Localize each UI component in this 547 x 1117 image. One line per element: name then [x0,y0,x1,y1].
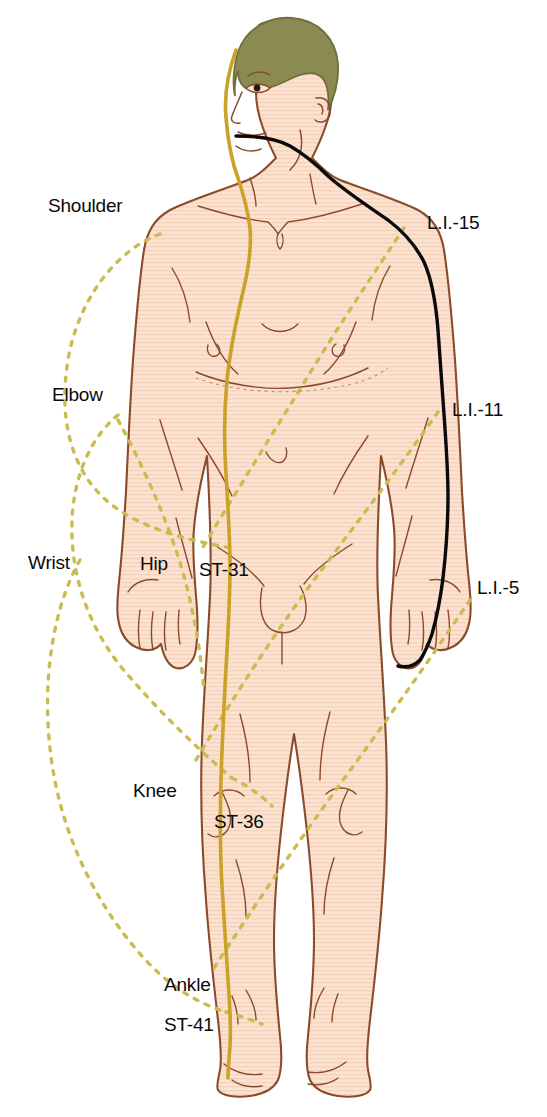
acupuncture-meridian-figure: Shoulder Elbow Wrist Hip Knee Ankle ST-3… [0,0,547,1117]
label-st-41: ST-41 [164,1015,214,1034]
label-li-5: L.I.-5 [477,578,519,597]
label-li-11: L.I.-11 [452,400,503,419]
label-elbow: Elbow [52,385,103,404]
label-li-15: L.I.-15 [427,213,479,232]
label-knee: Knee [133,781,177,800]
label-shoulder: Shoulder [48,196,122,215]
label-wrist: Wrist [28,553,70,572]
large-intestine-meridian-line [236,136,448,667]
label-st-36: ST-36 [214,812,264,831]
label-st-31: ST-31 [199,560,249,579]
label-hip: Hip [140,554,168,573]
meridian-lines [0,0,547,1117]
label-ankle: Ankle [164,975,211,994]
